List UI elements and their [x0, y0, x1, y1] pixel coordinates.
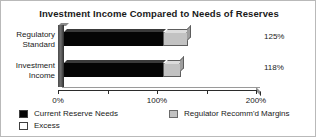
x-axis-top-edge: [62, 87, 260, 88]
category-label-regulatory-standard: Regulatory Standard: [0, 30, 55, 49]
x-axis-tick: [207, 90, 208, 94]
legend-label: Excess: [34, 121, 60, 130]
x-axis: 0%100%200%: [58, 87, 256, 95]
x-axis-tick: [58, 90, 59, 94]
x-axis-tick-label: 200%: [246, 96, 266, 105]
chart-legend: Current Reserve Needs Excess Regulator R…: [1, 109, 316, 135]
x-axis-tick-label: 100%: [147, 96, 167, 105]
category-label-line-1: Regulatory: [0, 30, 55, 40]
plot-area: Regulatory Standard Investment Income 12…: [1, 23, 316, 93]
bar-segment-regulator-margins: [163, 32, 188, 46]
legend-label: Regulator Recomm'd Margins: [184, 109, 290, 118]
bar-segment-regulator-margins: [163, 63, 181, 77]
chart-title: Investment Income Compared to Needs of R…: [1, 8, 316, 19]
category-label-investment-income: Investment Income: [0, 61, 55, 80]
x-axis-tick-label: 0%: [52, 96, 64, 105]
bar-value-label: 118%: [264, 63, 284, 72]
category-label-line-1: Investment: [0, 61, 55, 71]
x-axis-tick: [108, 90, 109, 94]
x-axis-tick: [157, 90, 158, 94]
legend-swatch-icon: [19, 110, 28, 118]
legend-item-excess: Excess: [19, 121, 60, 130]
legend-label: Current Reserve Needs: [34, 109, 118, 118]
chart-container: Investment Income Compared to Needs of R…: [0, 0, 316, 137]
x-axis-tick: [256, 90, 257, 94]
category-label-line-2: Standard: [0, 40, 55, 50]
bar-value-label: 125%: [264, 32, 284, 41]
legend-swatch-icon: [169, 110, 178, 118]
legend-swatch-icon: [19, 122, 28, 130]
category-label-line-2: Income: [0, 71, 55, 81]
legend-item-current-reserve-needs: Current Reserve Needs: [19, 109, 118, 118]
bar-segment-current-reserve-needs: [64, 32, 163, 46]
bar-segment-current-reserve-needs: [64, 63, 163, 77]
legend-item-regulator-margins: Regulator Recomm'd Margins: [169, 109, 290, 118]
